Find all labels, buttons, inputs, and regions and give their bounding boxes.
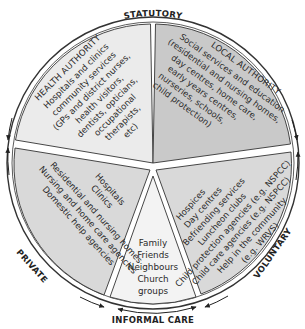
svg-text:Church: Church — [137, 274, 168, 284]
svg-text:Family: Family — [139, 238, 167, 248]
care-provision-diagram: STATUTORY PRIVATE VOLUNTARY INFORMAL CAR… — [0, 0, 305, 329]
label-informal-care: INFORMAL CARE — [112, 315, 194, 325]
svg-text:groups: groups — [138, 286, 169, 296]
svg-text:Friends: Friends — [137, 250, 169, 260]
diagram-canvas: STATUTORY PRIVATE VOLUNTARY INFORMAL CAR… — [0, 0, 305, 329]
svg-text:Neighbours: Neighbours — [128, 262, 179, 272]
